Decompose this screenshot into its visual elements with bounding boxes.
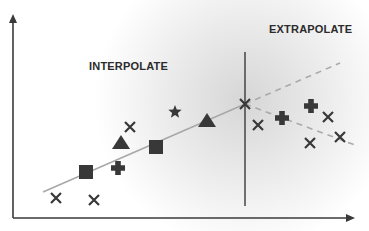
extrapolate-label: EXTRAPOLATE [269,23,352,35]
square-marker-icon [79,165,93,179]
interpolate-label: INTERPOLATE [89,60,168,72]
square-marker-icon [149,140,163,154]
